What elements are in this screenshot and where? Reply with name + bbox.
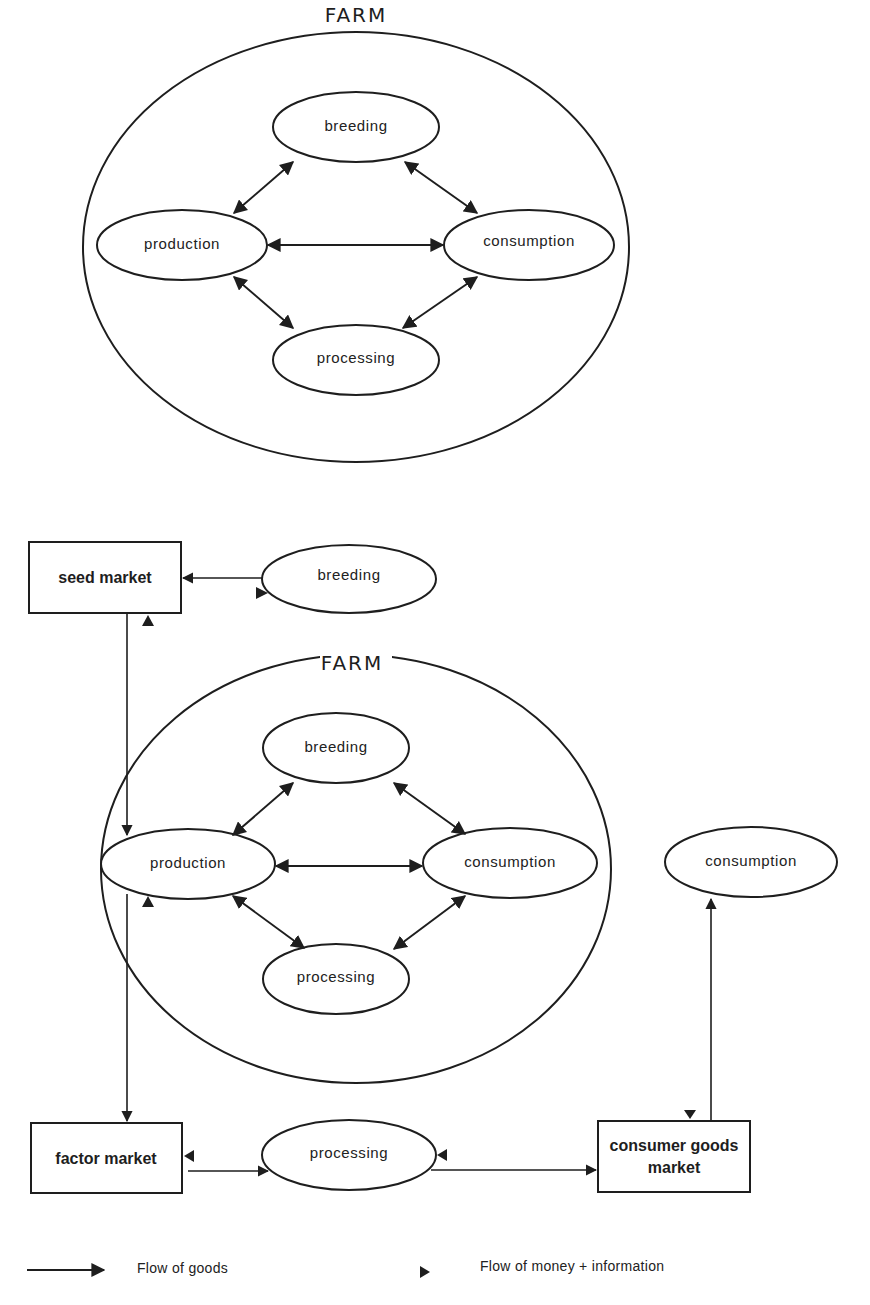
legend-goods-label: Flow of goods bbox=[137, 1260, 228, 1276]
bottom-arrow-production-processing bbox=[233, 896, 304, 948]
top-node-processing: processing bbox=[273, 325, 439, 395]
consumer-goods-market-label-line1: consumer goods bbox=[610, 1137, 739, 1154]
top-node-breeding: breeding bbox=[273, 92, 439, 162]
bottom-node-breeding-label: breeding bbox=[304, 738, 367, 755]
legend: Flow of goods Flow of money + informatio… bbox=[27, 1258, 664, 1278]
bottom-arrow-processing-consumption bbox=[394, 896, 465, 949]
legend-money-label: Flow of money + information bbox=[480, 1258, 664, 1274]
bottom-node-consumption-label: consumption bbox=[464, 853, 556, 870]
money-triangle-to-consumer-goods-market bbox=[684, 1110, 696, 1119]
external-breeding-label: breeding bbox=[317, 566, 380, 583]
bottom-farm-diagram: seed market breeding FARM breeding produ… bbox=[29, 542, 837, 1193]
bottom-arrow-breeding-consumption bbox=[394, 783, 465, 834]
bottom-node-production: production bbox=[101, 829, 275, 899]
money-triangle-to-processing bbox=[437, 1149, 447, 1161]
factor-market-label: factor market bbox=[55, 1150, 157, 1167]
bottom-node-consumption: consumption bbox=[423, 828, 597, 898]
top-node-production-label: production bbox=[144, 235, 220, 252]
farm-flow-diagram: FARM breeding production consumption pro… bbox=[0, 0, 870, 1305]
bottom-node-processing-label: processing bbox=[297, 968, 376, 985]
money-triangle-to-factor-market bbox=[184, 1150, 194, 1162]
money-triangle-to-seed-market bbox=[142, 615, 154, 626]
bottom-node-breeding: breeding bbox=[263, 713, 409, 783]
top-farm-label: FARM bbox=[325, 3, 388, 27]
external-consumption-node: consumption bbox=[665, 827, 837, 897]
top-node-production: production bbox=[97, 210, 267, 280]
consumer-goods-market-label-line2: market bbox=[648, 1159, 701, 1176]
top-farm-diagram: FARM breeding production consumption pro… bbox=[83, 3, 629, 462]
bottom-farm-label: FARM bbox=[321, 651, 384, 675]
consumer-goods-market-box: consumer goods market bbox=[598, 1121, 750, 1192]
bottom-node-production-label: production bbox=[150, 854, 226, 871]
seed-market-box: seed market bbox=[29, 542, 181, 613]
top-arrow-production-processing bbox=[234, 277, 293, 328]
top-node-consumption-label: consumption bbox=[483, 232, 575, 249]
top-node-processing-label: processing bbox=[317, 349, 396, 366]
bottom-arrow-production-breeding bbox=[233, 783, 293, 835]
top-arrow-processing-consumption bbox=[403, 277, 477, 328]
external-consumption-label: consumption bbox=[705, 852, 797, 869]
external-breeding-node: breeding bbox=[262, 545, 436, 613]
factor-market-box: factor market bbox=[31, 1123, 182, 1193]
external-processing-node: processing bbox=[262, 1120, 436, 1190]
seed-market-label: seed market bbox=[58, 569, 152, 586]
top-arrow-production-breeding bbox=[234, 162, 293, 213]
top-arrow-breeding-consumption bbox=[405, 162, 477, 213]
money-triangle-to-production bbox=[142, 896, 154, 907]
bottom-node-processing: processing bbox=[263, 944, 409, 1014]
legend-money-triangle-icon bbox=[420, 1266, 430, 1278]
external-processing-label: processing bbox=[310, 1144, 389, 1161]
top-node-breeding-label: breeding bbox=[324, 117, 387, 134]
top-node-consumption: consumption bbox=[444, 210, 614, 280]
